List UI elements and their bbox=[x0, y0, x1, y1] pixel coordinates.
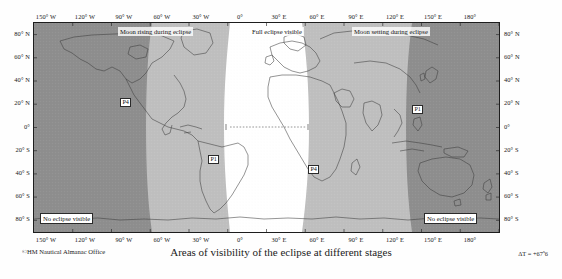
contact-point-p4-central-america: P4 bbox=[120, 98, 131, 107]
lon-tick-top-9: 120° E bbox=[375, 13, 415, 20]
lat-tick-left-1: 60° N bbox=[0, 53, 30, 60]
lon-tick-top-7: 60° E bbox=[297, 13, 337, 20]
lon-tick-top-4: 30° W bbox=[181, 13, 221, 20]
eclipse-visibility-figure: Moon rising during eclipse Full eclipse … bbox=[0, 0, 562, 279]
lat-tick-right-5: 20° S bbox=[504, 146, 544, 153]
lat-tick-left-5: 20° S bbox=[0, 146, 30, 153]
delta-t-annotation: ΔT = +67s6 bbox=[518, 249, 548, 257]
lat-tick-right-2: 40° N bbox=[504, 76, 544, 83]
lon-tick-top-8: 90° E bbox=[336, 13, 376, 20]
lat-tick-right-0: 80° N bbox=[504, 30, 544, 37]
copyright-notice: ©HM Nautical Almanac Office bbox=[22, 248, 105, 255]
lon-tick-top-11: 180° bbox=[450, 13, 490, 20]
lon-tick-bottom-10: 150° E bbox=[413, 236, 453, 243]
contact-point-p1-south-america: P1 bbox=[208, 155, 219, 164]
eclipse-shading-zones bbox=[34, 23, 499, 232]
annotation-moon-rising: Moon rising during eclipse bbox=[118, 27, 193, 36]
delta-t-fraction: 6 bbox=[545, 250, 548, 257]
lon-tick-bottom-2: 90° W bbox=[104, 236, 144, 243]
lat-tick-right-8: 80° S bbox=[504, 215, 544, 222]
delta-t-prefix: ΔT = +67 bbox=[518, 250, 543, 257]
lat-tick-left-8: 80° S bbox=[0, 215, 30, 222]
lat-tick-left-0: 80° N bbox=[0, 30, 30, 37]
lat-tick-left-2: 40° N bbox=[0, 76, 30, 83]
lon-tick-top-1: 120° W bbox=[65, 13, 105, 20]
contact-point-p4-africa: P4 bbox=[308, 165, 319, 174]
lon-tick-top-5: 0° bbox=[220, 13, 260, 20]
lon-tick-bottom-1: 120° W bbox=[65, 236, 105, 243]
annotation-moon-setting: Moon setting during eclipse bbox=[352, 27, 430, 36]
lat-tick-right-4: 0° bbox=[504, 123, 544, 130]
lon-tick-bottom-0: 150° W bbox=[26, 236, 66, 243]
lon-tick-bottom-5: 0° bbox=[220, 236, 260, 243]
annotation-no-eclipse-right: No eclipse visible bbox=[424, 213, 477, 224]
lon-tick-bottom-8: 90° E bbox=[336, 236, 376, 243]
lat-tick-left-3: 20° N bbox=[0, 99, 30, 106]
lon-tick-bottom-9: 120° E bbox=[375, 236, 415, 243]
lat-tick-left-7: 60° S bbox=[0, 192, 30, 199]
lat-tick-left-4: 0° bbox=[0, 123, 30, 130]
lon-tick-top-3: 60° W bbox=[142, 13, 182, 20]
annotation-no-eclipse-left: No eclipse visible bbox=[40, 213, 93, 224]
lon-tick-top-6: 30° E bbox=[259, 13, 299, 20]
lon-tick-top-2: 90° W bbox=[104, 13, 144, 20]
lon-tick-bottom-6: 30° E bbox=[259, 236, 299, 243]
lat-tick-right-7: 60° S bbox=[504, 192, 544, 199]
lon-tick-bottom-11: 180° bbox=[450, 236, 490, 243]
lon-tick-bottom-7: 60° E bbox=[297, 236, 337, 243]
lat-tick-right-1: 60° N bbox=[504, 53, 544, 60]
map-plot-area: Moon rising during eclipse Full eclipse … bbox=[33, 22, 500, 233]
lat-tick-right-6: 40° S bbox=[504, 169, 544, 176]
annotation-full-eclipse: Full eclipse visible bbox=[250, 27, 304, 36]
lon-tick-top-10: 150° E bbox=[413, 13, 453, 20]
lat-tick-right-3: 20° N bbox=[504, 99, 544, 106]
lon-tick-bottom-4: 30° W bbox=[181, 236, 221, 243]
lon-tick-bottom-3: 60° W bbox=[142, 236, 182, 243]
lon-tick-top-0: 150° W bbox=[26, 13, 66, 20]
contact-point-p1-asia: P1 bbox=[412, 105, 423, 114]
lat-tick-left-6: 40° S bbox=[0, 169, 30, 176]
